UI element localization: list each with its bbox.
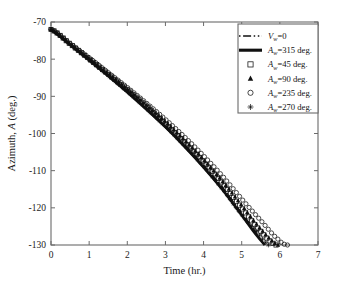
x-tick-label: 4 xyxy=(201,250,206,260)
svg-text:Azimuth, A (deg.): Azimuth, A (deg.) xyxy=(6,95,18,171)
x-tick-label: 1 xyxy=(87,250,92,260)
y-axis-title: Azimuth, A (deg.) xyxy=(6,95,18,171)
x-tick-label: 7 xyxy=(316,250,321,260)
azimuth-vs-time-chart: 01234567 -70-80-90-100-110-120-130 Time … xyxy=(0,0,346,288)
figure-container: 01234567 -70-80-90-100-110-120-130 Time … xyxy=(0,0,346,288)
y-tick-label: -130 xyxy=(29,240,47,250)
x-tick-label: 6 xyxy=(277,250,282,260)
x-tick-label: 5 xyxy=(239,250,244,260)
y-tick-label: -110 xyxy=(29,166,46,176)
legend: Vw=0Aw=315 deg.Aw=45 deg.Aw=90 deg.Aw=23… xyxy=(238,24,318,113)
x-tick-label: 2 xyxy=(125,250,130,260)
y-tick-label: -70 xyxy=(33,17,46,27)
legend-label-3: Aw=90 deg. xyxy=(267,74,308,85)
legend-label-2: Aw=45 deg. xyxy=(267,59,308,70)
x-tick-label: 3 xyxy=(163,250,168,260)
y-tick-label: -80 xyxy=(33,55,46,65)
y-axis-title-unit: (deg.) xyxy=(6,95,18,123)
y-tick-label: -90 xyxy=(33,92,46,102)
x-axis-title: Time (hr.) xyxy=(163,265,206,277)
y-tick-label: -100 xyxy=(29,129,47,139)
x-tick-label: 0 xyxy=(49,250,54,260)
legend-label-0: Vw=0 xyxy=(268,31,287,42)
y-tick-label: -120 xyxy=(29,203,47,213)
y-axis-title-main: Azimuth, xyxy=(6,129,17,171)
